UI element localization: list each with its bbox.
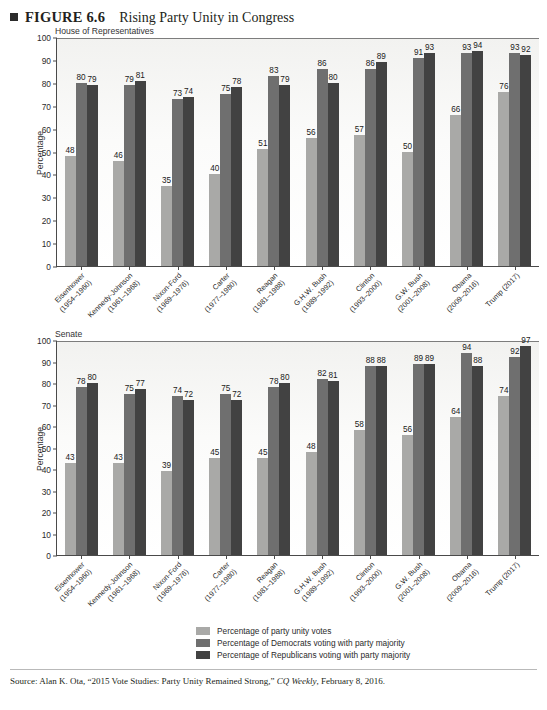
legend-label: Percentage of Democrats voting with part… — [217, 638, 405, 648]
bar-group: 578689 — [346, 38, 394, 266]
bar-value-label: 80 — [88, 373, 97, 382]
bar-group: 437577 — [105, 341, 153, 555]
legend-swatch — [196, 639, 210, 647]
legend-item: Percentage of party unity votes — [196, 626, 331, 636]
bar: 75 — [220, 394, 231, 555]
x-axis-label: Reagan(1981–1988) — [244, 271, 287, 314]
bar: 66 — [450, 115, 461, 266]
x-axis-label: Eisenhower(1954–1960) — [50, 560, 93, 603]
bar: 50 — [402, 152, 413, 267]
bar: 82 — [317, 379, 328, 555]
y-tick-mark — [53, 60, 57, 61]
bar-value-label: 88 — [366, 356, 375, 365]
bar-value-label: 83 — [269, 66, 278, 75]
bar-value-label: 78 — [269, 377, 278, 386]
bar-group: 437880 — [57, 341, 105, 555]
bar-value-label: 92 — [521, 45, 530, 54]
bar-value-label: 80 — [280, 373, 289, 382]
bar: 74 — [183, 97, 194, 266]
bar: 79 — [124, 85, 135, 266]
bar-value-label: 43 — [66, 453, 75, 462]
bar: 46 — [113, 161, 124, 266]
y-tick-mark — [53, 491, 57, 492]
bar-value-label: 93 — [462, 43, 471, 52]
bar-value-label: 48 — [66, 146, 75, 155]
bar-value-label: 56 — [307, 128, 316, 137]
x-axis-label: Clinton(1993–2000) — [340, 560, 383, 603]
bar-value-label: 75 — [221, 384, 230, 393]
bars-area-senate: 4378804375773974724575724578804882815888… — [57, 341, 539, 555]
bar-group: 467981 — [105, 38, 153, 266]
bar: 45 — [257, 458, 268, 555]
bar-group: 407578 — [202, 38, 250, 266]
x-axis-label: G.H.W. Bush(1989–1992) — [291, 560, 335, 604]
y-tick-mark — [53, 405, 57, 406]
bar: 88 — [376, 366, 387, 555]
bar: 35 — [161, 186, 172, 266]
bar-group: 488281 — [298, 341, 346, 555]
y-tick-mark — [53, 152, 57, 153]
bar-value-label: 89 — [414, 354, 423, 363]
bar-value-label: 75 — [221, 84, 230, 93]
legend-swatch — [196, 627, 210, 635]
bar: 83 — [268, 76, 279, 266]
bar-value-label: 81 — [136, 71, 145, 80]
x-axis-label: Kennedy-Johnson(1961–1968) — [86, 560, 142, 616]
bar: 94 — [461, 353, 472, 555]
bar-group: 488079 — [57, 38, 105, 266]
bar-value-label: 56 — [403, 425, 412, 434]
chart-legend: Percentage of party unity votesPercentag… — [0, 626, 547, 660]
bar-value-label: 35 — [162, 176, 171, 185]
x-axis-label: Trump (2017) — [483, 560, 521, 598]
bar-group: 518379 — [250, 38, 298, 266]
bar-value-label: 92 — [510, 347, 519, 356]
chart-title-senate: Senate — [55, 329, 547, 339]
bar: 93 — [424, 53, 435, 266]
bar-value-label: 86 — [318, 59, 327, 68]
bar-value-label: 89 — [377, 52, 386, 61]
source-note: Source: Alan K. Ota, “2015 Vote Studies:… — [10, 676, 547, 686]
bar: 78 — [231, 87, 242, 266]
bar: 78 — [268, 387, 279, 555]
x-axis-label: Obama(2009–2016) — [437, 560, 480, 603]
bar-value-label: 72 — [184, 390, 193, 399]
x-axis-label: Kennedy-Johnson(1961–1968) — [86, 271, 142, 327]
bar-value-label: 72 — [232, 390, 241, 399]
bar-value-label: 77 — [136, 379, 145, 388]
y-tick-mark — [53, 513, 57, 514]
bar-value-label: 88 — [377, 356, 386, 365]
bar-group: 769392 — [491, 38, 539, 266]
bar: 78 — [76, 387, 87, 555]
y-tick-mark — [53, 384, 57, 385]
bar-value-label: 80 — [77, 73, 86, 82]
bar: 56 — [306, 138, 317, 266]
y-tick-mark — [53, 175, 57, 176]
source-text: Alan K. Ota, “2015 Vote Studies: Party U… — [39, 676, 274, 686]
figure-number: FIGURE 6.6 — [25, 9, 105, 26]
bar: 97 — [520, 346, 531, 555]
bar-group: 588888 — [346, 341, 394, 555]
bar: 39 — [161, 471, 172, 555]
legend-label: Percentage of Republicans voting with pa… — [217, 650, 410, 660]
bar-value-label: 46 — [114, 151, 123, 160]
bar-value-label: 50 — [403, 142, 412, 151]
bar-value-label: 43 — [114, 453, 123, 462]
bar-value-label: 73 — [173, 89, 182, 98]
bar: 88 — [365, 366, 376, 555]
bar-value-label: 51 — [258, 139, 267, 148]
bar: 89 — [424, 364, 435, 555]
bar-value-label: 78 — [77, 377, 86, 386]
plot-wrap-senate: Percentage 43788043757739747245757245788… — [18, 341, 547, 556]
x-axis-label: Clinton(1993–2000) — [340, 271, 383, 314]
y-tick-mark — [53, 244, 57, 245]
bar: 75 — [124, 394, 135, 555]
bar-value-label: 74 — [499, 386, 508, 395]
bar-value-label: 75 — [125, 384, 134, 393]
bar: 86 — [317, 69, 328, 266]
bar-value-label: 79 — [88, 75, 97, 84]
bar: 89 — [413, 364, 424, 555]
bar-value-label: 45 — [210, 448, 219, 457]
bars-area-house: 4880794679813573744075785183795686805786… — [57, 38, 539, 266]
legend-item: Percentage of Democrats voting with part… — [196, 638, 405, 648]
bar: 89 — [376, 62, 387, 266]
